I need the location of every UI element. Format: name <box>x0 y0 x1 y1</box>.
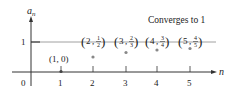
x-axis-label: n <box>219 66 224 77</box>
svg-text:3: 3 <box>161 35 164 41</box>
svg-text:,: , <box>156 36 158 46</box>
x-tick-label: 5 <box>187 78 192 88</box>
svg-text:2: 2 <box>130 35 133 41</box>
point-label-3: ( 3 , 2 3 ) <box>114 34 138 49</box>
sequence-chart: an 1 n 0 1 2 3 4 5 Converges to 1 (1, 0)… <box>0 0 231 96</box>
data-point <box>155 48 158 51</box>
point-label-4: ( 4 , 3 4 ) <box>145 34 169 49</box>
data-point <box>124 51 127 54</box>
svg-text:3: 3 <box>130 42 133 48</box>
svg-text:4: 4 <box>194 35 197 41</box>
chart-title: Converges to 1 <box>148 15 206 25</box>
svg-text:5: 5 <box>194 42 197 48</box>
point-label-2: ( 2 , 1 2 ) <box>81 34 105 49</box>
svg-text:): ) <box>134 34 138 49</box>
svg-text:2: 2 <box>86 36 91 46</box>
x-tick-label: 4 <box>154 78 159 88</box>
svg-text:3: 3 <box>119 36 124 46</box>
svg-text:(: ( <box>145 34 149 49</box>
point-label-5: ( 5 , 4 5 ) <box>178 34 202 49</box>
svg-text:4: 4 <box>150 36 155 46</box>
svg-text:,: , <box>125 36 127 46</box>
svg-text:,: , <box>189 36 191 46</box>
y-axis-label: an <box>27 5 36 18</box>
svg-text:2: 2 <box>97 42 100 48</box>
data-point <box>59 70 62 73</box>
x-tick-label: 3 <box>123 78 128 88</box>
point-label-1: (1, 0) <box>49 54 69 64</box>
svg-text:): ) <box>198 34 202 49</box>
svg-text:1: 1 <box>97 35 100 41</box>
x-tick-label: 2 <box>90 78 95 88</box>
svg-text:(: ( <box>114 34 118 49</box>
svg-text:5: 5 <box>183 36 188 46</box>
data-point <box>188 47 191 50</box>
x-axis-arrow-icon <box>211 70 217 74</box>
svg-text:(: ( <box>81 34 85 49</box>
svg-text:4: 4 <box>161 42 164 48</box>
x-ticks <box>61 66 190 72</box>
y-tick-label-1: 1 <box>21 37 26 47</box>
svg-text:,: , <box>92 36 94 46</box>
origin-label: 0 <box>21 78 26 88</box>
svg-text:): ) <box>101 34 105 49</box>
data-point <box>91 55 94 58</box>
svg-text:(: ( <box>178 34 182 49</box>
svg-text:): ) <box>165 34 169 49</box>
x-tick-label: 1 <box>58 78 63 88</box>
